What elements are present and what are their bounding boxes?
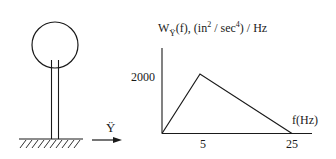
title-main: W [158,21,170,35]
arrow-head-icon [113,137,122,143]
title-tail: ) / Hz [240,21,267,35]
chart-title: WŸ(f), (in2 / sec4) / Hz [158,20,267,38]
psd-curve [162,74,292,134]
title-arg: (f), (in [176,21,207,35]
excitation-arrow [92,137,122,143]
excitation-label: Ÿ [106,120,116,135]
diagram-canvas: Ÿ 2000 5 25 f(Hz) WŸ(f), (in2 / sec4) / … [0,0,336,159]
y-tick-2000: 2000 [131,70,155,84]
psd-chart: 2000 5 25 f(Hz) WŸ(f), (in2 / sec4) / Hz [131,20,318,151]
x-tick-25: 25 [286,137,298,151]
mass-ball [32,22,78,68]
title-mid: / sec [211,21,236,35]
x-tick-5: 5 [200,137,206,151]
x-axis-label: f(Hz) [292,113,318,127]
mass-stem-model [19,22,83,148]
ground-hatch [20,140,80,148]
